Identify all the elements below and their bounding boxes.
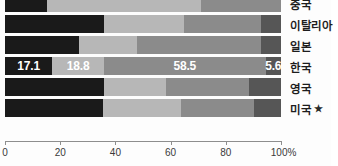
x-axis: 020406080100% xyxy=(5,141,281,166)
x-axis-tick xyxy=(226,141,227,145)
bar-segment xyxy=(5,36,79,54)
x-axis-tick-label: 40 xyxy=(110,147,121,158)
x-axis-tick-label: 80 xyxy=(220,147,231,158)
x-axis-tick-label: 60 xyxy=(165,147,176,158)
bar-segment xyxy=(5,99,103,117)
bar-segment xyxy=(249,78,281,96)
bar-segment-value-label: 58.5 xyxy=(104,57,265,75)
category-label-column: 중국이탈리아일본한국영국미국★ xyxy=(290,0,338,119)
stacked-bar: 17.118.858.55.6 xyxy=(5,57,281,75)
bar-segment xyxy=(47,0,201,12)
category-label: 이탈리아 xyxy=(290,14,338,35)
bar-row xyxy=(5,98,281,119)
x-axis-tick-label: 20 xyxy=(55,147,66,158)
x-axis-tick xyxy=(171,141,172,145)
bar-segment: 18.8 xyxy=(52,57,104,75)
category-label: 중국 xyxy=(290,0,338,14)
bar-segment-value-label: 18.8 xyxy=(52,57,104,75)
bar-row xyxy=(5,14,281,35)
stacked-bar xyxy=(5,36,281,54)
bar-segment xyxy=(201,0,281,12)
x-axis-tick xyxy=(281,141,282,145)
bar-row: 17.118.858.55.6 xyxy=(5,56,281,77)
category-label-text: 이탈리아 xyxy=(290,17,333,33)
bar-segment xyxy=(104,78,166,96)
x-axis-tick xyxy=(60,141,61,145)
x-axis-tick-label: 100% xyxy=(271,147,297,158)
stacked-bar xyxy=(5,15,281,33)
x-axis-tick-label: 0 xyxy=(2,147,8,158)
category-label: 미국★ xyxy=(290,98,338,119)
bar-segment xyxy=(104,15,184,33)
stacked-bar xyxy=(5,99,281,117)
bar-segment xyxy=(261,36,281,54)
bar-row xyxy=(5,35,281,56)
bar-segment xyxy=(5,0,47,12)
bar-segment xyxy=(137,36,261,54)
category-label-text: 일본 xyxy=(290,38,311,54)
bar-segment xyxy=(5,15,104,33)
category-label-text: 한국 xyxy=(290,59,311,75)
category-label-text: 중국 xyxy=(290,0,311,12)
star-icon: ★ xyxy=(314,103,323,114)
category-label: 한국 xyxy=(290,56,338,77)
plot-area: 17.118.858.55.6 xyxy=(5,0,281,119)
bar-segment: 17.1 xyxy=(5,57,52,75)
bar-segment: 58.5 xyxy=(104,57,265,75)
x-axis-tick xyxy=(5,141,6,145)
x-axis-line xyxy=(5,141,281,142)
bar-segment xyxy=(254,99,281,117)
bar-segment xyxy=(103,99,181,117)
bar-segment-value-label: 17.1 xyxy=(5,57,52,75)
bar-segment xyxy=(166,78,249,96)
stacked-bar xyxy=(5,0,281,12)
category-label: 영국 xyxy=(290,77,338,98)
bar-segment xyxy=(261,15,281,33)
category-label-text: 영국 xyxy=(290,80,311,96)
bar-segment: 5.6 xyxy=(266,57,281,75)
category-label: 일본 xyxy=(290,35,338,56)
stacked-bar xyxy=(5,78,281,96)
bar-row xyxy=(5,77,281,98)
category-label-text: 미국 xyxy=(290,101,311,117)
x-axis-tick xyxy=(115,141,116,145)
bar-row xyxy=(5,0,281,14)
bar-segment xyxy=(181,99,254,117)
bar-segment xyxy=(5,78,104,96)
bar-segment xyxy=(79,36,137,54)
bar-segment xyxy=(184,15,262,33)
bar-segment-value-label: 5.6 xyxy=(266,57,281,75)
